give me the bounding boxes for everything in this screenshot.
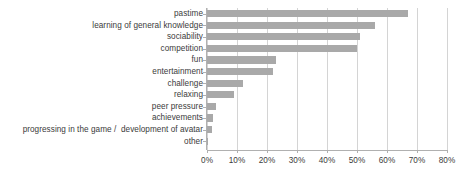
x-axis-tick [237,150,238,153]
y-axis-tick [203,107,206,108]
bar-row: learning of general knowledge [0,20,464,32]
bar-row: peer pressure [0,101,464,113]
bar-row: other [0,136,464,148]
bar-rows: pastimelearning of general knowledgesoci… [0,8,464,147]
y-axis-tick [203,72,206,73]
y-axis-tick [203,14,206,15]
y-axis-tick [203,49,206,50]
bar [207,45,357,52]
bar-category-label: progressing in the game / development of… [0,124,203,136]
bar-row: fun [0,54,464,66]
bar-row: entertainment [0,66,464,78]
bar [207,68,273,75]
bar [207,103,216,110]
bar-track [207,124,447,136]
y-axis-tick [203,25,206,26]
y-axis-tick [203,95,206,96]
bar-row: progressing in the game / development of… [0,124,464,136]
bar-track [207,78,447,90]
bar [207,56,276,63]
bar-category-label: competition [0,43,203,55]
x-axis-tick [327,150,328,153]
y-axis-tick [203,83,206,84]
bar-row: relaxing [0,89,464,101]
bar [207,80,243,87]
bar-track [207,101,447,113]
bar-category-label: pastime [0,8,203,20]
x-axis-tick [267,150,268,153]
bar-track [207,136,447,148]
bar-track [207,112,447,124]
bar-category-label: entertainment [0,66,203,78]
bar-category-label: challenge [0,78,203,90]
x-axis-tick [297,150,298,153]
bar [207,126,212,133]
bar-row: sociability [0,31,464,43]
bar-category-label: other [0,136,203,148]
x-axis-tick [207,150,208,153]
bar-track [207,54,447,66]
bar-track [207,8,447,20]
y-axis-tick [203,60,206,61]
bar [207,114,213,121]
bar-row: challenge [0,78,464,90]
bar [207,138,208,145]
bar-row: pastime [0,8,464,20]
bar-category-label: achievements [0,112,203,124]
bar [207,91,234,98]
bar [207,10,408,17]
bar [207,33,360,40]
bar-track [207,66,447,78]
bar-track [207,20,447,32]
x-axis-tick [447,150,448,153]
y-axis-tick [203,37,206,38]
x-axis-tick [387,150,388,153]
bar-category-label: fun [0,54,203,66]
bar-chart: pastimelearning of general knowledgesoci… [0,0,464,178]
bar-track [207,31,447,43]
bar [207,22,375,29]
bar-category-label: learning of general knowledge [0,20,203,32]
y-axis-tick [203,130,206,131]
x-axis-tick-labels: 0%10%20%30%40%50%60%70%80% [0,155,464,169]
bar-track [207,43,447,55]
bar-category-label: relaxing [0,89,203,101]
x-axis-tick-label: 80% [427,155,464,166]
bar-row: achievements [0,112,464,124]
bar-category-label: sociability [0,31,203,43]
bar-track [207,89,447,101]
x-axis-tick [417,150,418,153]
y-axis-tick [203,118,206,119]
bar-row: competition [0,43,464,55]
x-axis-tick [357,150,358,153]
bar-category-label: peer pressure [0,101,203,113]
y-axis-tick [203,141,206,142]
